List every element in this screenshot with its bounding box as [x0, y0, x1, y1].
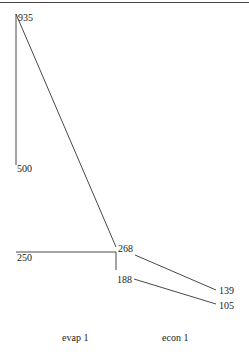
segment-268-139	[135, 255, 216, 290]
point-label-188: 188	[117, 274, 132, 285]
point-label-105: 105	[219, 300, 234, 311]
point-label-935: 935	[18, 12, 33, 23]
segment-188-105	[134, 279, 216, 304]
segments	[16, 14, 216, 304]
point-label-268: 268	[118, 243, 133, 254]
point-labels: 935500250268188139105	[17, 12, 234, 311]
point-label-500: 500	[17, 163, 32, 174]
segment-935-268	[16, 14, 116, 247]
category-label-evap-1: evap 1	[62, 332, 88, 343]
point-label-250: 250	[17, 252, 32, 263]
category-label-econ-1: econ 1	[162, 332, 188, 343]
point-label-139: 139	[219, 285, 234, 296]
chart: 935500250268188139105 evap 1 econ 1	[0, 0, 249, 361]
